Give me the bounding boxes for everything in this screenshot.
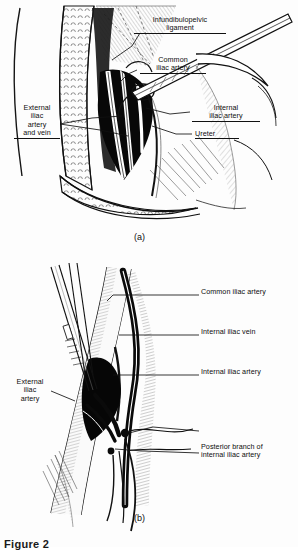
label-external-iliac-artery-b: External iliac artery (8, 378, 52, 403)
label-internal-iliac-artery-a: Internal iliac artery (192, 104, 260, 122)
body-contour (14, 8, 22, 176)
label-common-iliac-artery-b: Common iliac artery (201, 288, 297, 296)
label-internal-iliac-artery-b: Internal iliac artery (201, 368, 297, 376)
caption-panel-b: (b) (134, 513, 145, 523)
caption-panel-a: (a) (134, 232, 145, 242)
label-internal-iliac-vein: Internal iliac vein (201, 328, 297, 336)
label-external-iliac-artery-and-vein: External iliac artery and vein (14, 104, 60, 139)
label-ureter: Ureter (195, 130, 239, 139)
suture-tail-2 (107, 455, 114, 521)
leader-ureter (152, 126, 192, 134)
figure-footer-text: Figure 2 (4, 538, 49, 550)
label-posterior-branch-of-internal-iliac-artery: Posterior branch of internal iliac arter… (201, 443, 297, 460)
panel-a: Infundibulopelvic ligament Common iliac … (0, 0, 298, 255)
label-common-iliac-artery-a: Common iliac artery (140, 56, 206, 74)
leader-external-iliac-b (51, 391, 75, 401)
ligature-knot (121, 429, 129, 437)
ligature-knot-2 (108, 448, 115, 455)
panel-b: Common iliac artery Internal iliac vein … (0, 255, 298, 547)
label-infundibulopelvic-ligament: Infundibulopelvic ligament (134, 16, 226, 34)
